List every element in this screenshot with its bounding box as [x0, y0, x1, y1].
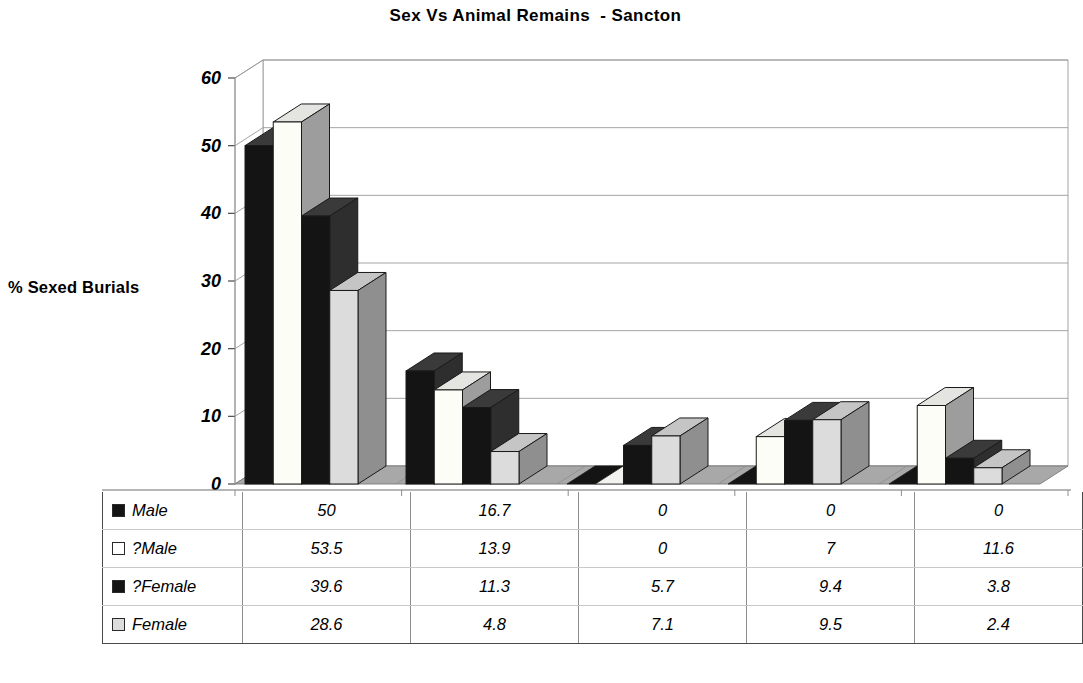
bar-front-face [946, 458, 974, 484]
legend-series-label: ?Male [132, 539, 177, 557]
table-value-cell: 0 [747, 492, 915, 530]
legend-series-label: ?Female [132, 577, 196, 595]
table-value-cell: 53.5 [243, 530, 411, 568]
y-axis-tick-label: 30 [201, 271, 221, 291]
table-value-cell: 2.4 [915, 606, 1083, 644]
table-value-cell: 9.5 [747, 606, 915, 644]
table-value-cell: 39.6 [243, 568, 411, 606]
table-row: ?Female39.611.35.79.43.8 [103, 568, 1083, 606]
bar-front-face [302, 216, 330, 484]
bar-front-face [652, 436, 680, 484]
table-value-cell: 16.7 [411, 492, 579, 530]
y-axis-tick-label: 60 [201, 68, 221, 88]
legend-swatch-icon [112, 618, 125, 631]
table-value-cell: 7.1 [579, 606, 747, 644]
bar-Female-Animals [330, 272, 386, 484]
table-value-cell: 0 [579, 492, 747, 530]
chart-canvas: 0102030405060AnimalsHorseCattleSheep/Goa… [0, 56, 1071, 496]
legend-entry: ?Female [103, 568, 243, 606]
bar-front-face [491, 452, 519, 484]
legend-entry: ?Male [103, 530, 243, 568]
y-axis-tick-label: 0 [211, 474, 221, 494]
table-value-cell: 3.8 [915, 568, 1083, 606]
y-axis-tick-label: 40 [200, 203, 221, 223]
table-value-cell: 50 [243, 492, 411, 530]
chart-plot-area: 0102030405060AnimalsHorseCattleSheep/Goa… [0, 56, 1071, 496]
chart-data-table: AnimalsHorseCattleSheep/GoatPigMale5016.… [102, 492, 1067, 644]
y-axis-tick-label: 50 [201, 136, 221, 156]
bar-front-face [917, 406, 945, 484]
table-row: ?Male53.513.90711.6 [103, 530, 1083, 568]
table-value-cell: 0 [915, 492, 1083, 530]
bar-front-face [756, 437, 784, 484]
bar-front-face [463, 408, 491, 484]
bar-front-face [330, 290, 358, 484]
table-value-cell: 11.6 [915, 530, 1083, 568]
chart-title: Sex Vs Animal Remains - Sancton [0, 6, 1071, 26]
y-axis-tick-label: 10 [201, 406, 221, 426]
bar-front-face [813, 420, 841, 484]
legend-swatch-icon [112, 504, 125, 517]
bar-front-face [974, 468, 1002, 484]
table-row: Male5016.7000 [103, 492, 1083, 530]
table-value-cell: 11.3 [411, 568, 579, 606]
table-value-cell: 13.9 [411, 530, 579, 568]
legend-swatch-icon [112, 542, 125, 555]
legend-swatch-icon [112, 580, 125, 593]
legend-entry: Male [103, 492, 243, 530]
table-value-cell: 28.6 [243, 606, 411, 644]
legend-entry: Female [103, 606, 243, 644]
bar-Female-Sheep-Goat [813, 402, 869, 484]
table-value-cell: 4.8 [411, 606, 579, 644]
bar-front-face [406, 371, 434, 484]
table-value-cell: 7 [747, 530, 915, 568]
legend-series-label: Female [132, 615, 187, 633]
table-value-cell: 9.4 [747, 568, 915, 606]
y-axis-tick-label: 20 [200, 339, 221, 359]
bar-front-face [273, 122, 301, 484]
bar-front-face [785, 420, 813, 484]
bar-front-face [245, 146, 273, 484]
table-value-cell: 5.7 [579, 568, 747, 606]
bar-front-face [434, 390, 462, 484]
legend-series-label: Male [132, 501, 168, 519]
table-row: Female28.64.87.19.52.4 [103, 606, 1083, 644]
bar-side-face [358, 272, 386, 484]
table-value-cell: 0 [579, 530, 747, 568]
bar-front-face [624, 445, 652, 484]
